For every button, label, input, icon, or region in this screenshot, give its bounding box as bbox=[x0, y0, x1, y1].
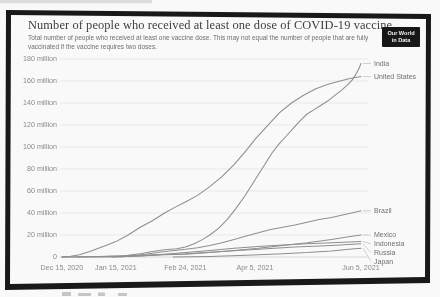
y-tick-label: 60 million bbox=[27, 187, 57, 195]
y-tick-label: 140 million bbox=[23, 99, 57, 107]
x-tick-label: Dec 15, 2020 bbox=[41, 263, 84, 272]
cropped-text-remnant-1 bbox=[78, 293, 91, 296]
y-tick-label: 120 million bbox=[23, 121, 57, 129]
owid-logo: Our World in Data bbox=[382, 27, 420, 47]
chart-title: Number of people who received at least o… bbox=[28, 18, 392, 33]
entity-label-india: India bbox=[374, 60, 389, 67]
x-tick-label: Apr 5, 2021 bbox=[236, 263, 273, 272]
y-tick-label: 0 bbox=[53, 253, 57, 261]
y-tick-label: 20 million bbox=[27, 231, 57, 239]
y-tick-label: 40 million bbox=[27, 209, 57, 217]
leader-line-russia bbox=[363, 244, 371, 253]
entity-label-indonesia: Indonesia bbox=[374, 240, 404, 247]
y-tick-label: 100 million bbox=[23, 143, 57, 151]
series-line-india bbox=[62, 63, 361, 257]
series-line-united-states bbox=[62, 77, 361, 257]
x-tick-label: Feb 24, 2021 bbox=[164, 263, 206, 272]
cropped-text-remnant-3 bbox=[118, 293, 127, 296]
entity-label-japan: Japan bbox=[374, 258, 393, 266]
chart-subtitle: Total number of people who received at l… bbox=[28, 33, 376, 52]
entity-label-russia: Russia bbox=[374, 249, 396, 256]
y-tick-label: 160 million bbox=[23, 77, 57, 85]
entity-label-brazil: Brazil bbox=[374, 207, 392, 214]
owid-logo-line2: in Data bbox=[384, 37, 418, 44]
owid-logo-line1: Our World bbox=[384, 30, 418, 37]
y-tick-label: 80 million bbox=[27, 165, 57, 173]
entity-label-mexico: Mexico bbox=[374, 231, 396, 238]
photographed-chart-card: 180 million160 million140 million120 mil… bbox=[0, 0, 440, 297]
cropped-text-remnant-2 bbox=[98, 293, 105, 297]
y-tick-label: 180 million bbox=[23, 55, 57, 63]
top-edge-artifact bbox=[0, 0, 152, 3]
cropped-text-remnant-0 bbox=[62, 292, 71, 296]
x-tick-label: Jan 15, 2021 bbox=[95, 263, 137, 272]
entity-label-united-states: United States bbox=[374, 73, 417, 80]
leader-line-japan bbox=[363, 248, 371, 261]
leader-line-indonesia bbox=[363, 242, 371, 244]
